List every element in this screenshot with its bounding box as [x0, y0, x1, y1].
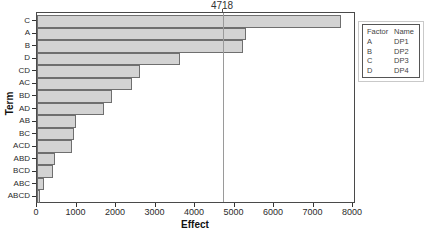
x-tick-label-2000: 2000: [95, 207, 135, 217]
pareto-chart-of-effects: 4718 Term Effect Factor Name ADP1BDP2CDP…: [0, 0, 425, 237]
bar-ad: [37, 103, 104, 116]
legend-cell-factor-a: A: [367, 37, 394, 47]
bar-abd: [37, 153, 55, 166]
legend-header-factor: Factor: [367, 27, 394, 37]
y-axis-tick: [32, 146, 36, 147]
x-tick-label-4000: 4000: [174, 207, 214, 217]
y-axis-tick: [32, 171, 36, 172]
bar-c: [37, 15, 341, 28]
y-tick-label-abcd: ABCD: [0, 191, 32, 200]
x-tick-label-1000: 1000: [56, 207, 96, 217]
y-tick-label-acd: ACD: [0, 141, 32, 150]
y-axis-tick: [32, 45, 36, 46]
legend-header-name: Name: [394, 27, 419, 37]
legend-cell-name-a: DP1: [394, 37, 419, 47]
y-axis-tick: [32, 121, 36, 122]
y-tick-label-abc: ABC: [0, 179, 32, 188]
bar-bcd: [37, 165, 53, 178]
y-tick-label-bc: BC: [0, 129, 32, 138]
x-tick-label-3000: 3000: [135, 207, 175, 217]
bar-acd: [37, 140, 72, 153]
x-tick-label-5000: 5000: [214, 207, 254, 217]
y-tick-label-ad: AD: [0, 104, 32, 113]
y-axis-tick: [32, 158, 36, 159]
bar-cd: [37, 65, 140, 78]
y-tick-label-d: D: [0, 53, 32, 62]
x-axis-label: Effect: [165, 219, 225, 230]
legend-cell-factor-c: C: [367, 56, 394, 66]
y-tick-label-b: B: [0, 41, 32, 50]
y-tick-label-abd: ABD: [0, 154, 32, 163]
y-tick-label-c: C: [0, 16, 32, 25]
y-tick-label-bd: BD: [0, 91, 32, 100]
bar-d: [37, 53, 180, 66]
bar-abc: [37, 178, 44, 191]
x-tick-label-7000: 7000: [293, 207, 333, 217]
y-tick-label-ab: AB: [0, 116, 32, 125]
y-axis-tick: [32, 183, 36, 184]
y-tick-label-cd: CD: [0, 66, 32, 75]
bar-bd: [37, 90, 112, 103]
y-axis-tick: [32, 95, 36, 96]
bar-abcd: [37, 190, 40, 203]
bar-b: [37, 40, 243, 53]
legend-cell-factor-b: B: [367, 47, 394, 57]
y-axis-tick: [32, 83, 36, 84]
y-axis-tick: [32, 108, 36, 109]
legend-frame: Factor Name ADP1BDP2CDP3DDP4: [358, 21, 424, 82]
reference-line: [223, 13, 224, 202]
legend-cell-factor-d: D: [367, 66, 394, 76]
y-tick-label-bcd: BCD: [0, 166, 32, 175]
legend-cell-name-c: DP3: [394, 56, 419, 66]
x-tick-label-6000: 6000: [253, 207, 293, 217]
plot-area: [36, 12, 355, 203]
y-axis-tick: [32, 20, 36, 21]
y-axis-tick: [32, 70, 36, 71]
y-axis-tick: [32, 58, 36, 59]
bar-a: [37, 28, 246, 41]
factor-name-legend: Factor Name ADP1BDP2CDP3DDP4: [362, 24, 420, 78]
y-tick-label-a: A: [0, 28, 32, 37]
legend-cell-name-b: DP2: [394, 47, 419, 57]
y-axis-tick: [32, 196, 36, 197]
legend-cell-name-d: DP4: [394, 66, 419, 76]
bar-ab: [37, 115, 76, 128]
y-tick-label-ac: AC: [0, 78, 32, 87]
bar-ac: [37, 78, 132, 91]
bar-bc: [37, 128, 74, 141]
y-axis-tick: [32, 33, 36, 34]
y-axis-tick: [32, 133, 36, 134]
x-tick-label-0: 0: [16, 207, 56, 217]
x-tick-label-8000: 8000: [332, 207, 372, 217]
